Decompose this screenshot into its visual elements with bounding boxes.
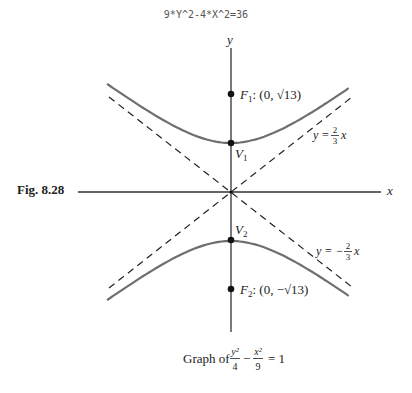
- svg-text:x: x: [353, 244, 360, 258]
- focus-f2-label: F2: (0, −√13): [239, 282, 308, 299]
- caption-term2-den: 9: [256, 361, 261, 372]
- caption-term2-num: x²: [253, 346, 262, 357]
- center-point: [229, 190, 232, 193]
- caption-rhs: = 1: [268, 351, 285, 366]
- focus-f2-point: [228, 286, 235, 293]
- svg-text:3: 3: [333, 136, 338, 146]
- asymptote-negative-label: y = − 2 3 x: [315, 241, 360, 262]
- vertex-v1-point: [228, 140, 235, 147]
- focus-f1-point: [228, 91, 235, 98]
- hyperbola-lower-branch: [107, 241, 349, 300]
- vertex-v2-label: V2: [235, 222, 247, 239]
- caption-term1-num: y²: [230, 346, 239, 357]
- caption-operator: −: [243, 351, 250, 366]
- caption-prefix: Graph of: [183, 351, 230, 366]
- svg-text:2: 2: [346, 241, 351, 251]
- svg-text:y =: y =: [312, 128, 329, 142]
- caption-term1-den: 4: [233, 361, 238, 372]
- svg-text:2: 2: [333, 125, 338, 135]
- vertex-v2-point: [228, 237, 235, 244]
- svg-text:y = −: y = −: [315, 244, 344, 258]
- x-axis-label: x: [386, 183, 393, 198]
- svg-text:x: x: [340, 128, 347, 142]
- hyperbola-diagram: y x F1: (0, √13) V1 V2 F2: (0, −√13) y =…: [0, 0, 412, 393]
- focus-f1-label: F1: (0, √13): [239, 87, 301, 104]
- vertex-v1-label: V1: [235, 146, 247, 163]
- y-axis-label: y: [225, 32, 233, 47]
- asymptote-positive-label: y = 2 3 x: [312, 125, 347, 146]
- figure-caption: Graph of y² 4 − x² 9 = 1: [183, 346, 285, 372]
- svg-text:3: 3: [346, 252, 351, 262]
